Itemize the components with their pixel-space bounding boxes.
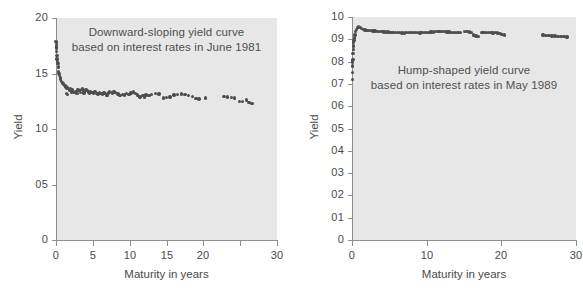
- data-point: [143, 95, 146, 98]
- data-point: [197, 97, 200, 100]
- data-point: [70, 90, 73, 93]
- data-point: [55, 50, 58, 53]
- data-point: [55, 45, 58, 48]
- data-point: [353, 36, 356, 39]
- data-point: [351, 78, 354, 81]
- y-tick-left-4: [52, 18, 57, 19]
- chart-annotation-right: Hump-shaped yield curve based on interes…: [352, 63, 576, 93]
- y-tick-right-6: [348, 106, 353, 107]
- y-tick-right-10: [348, 17, 353, 18]
- y-tick-label-left-1: 05: [16, 178, 48, 190]
- x-tick-right-2: [501, 241, 502, 246]
- x-tick-left-5: [240, 241, 241, 246]
- y-tick-label-right-3: 03: [312, 166, 344, 178]
- y-axis-title-right: Yield: [308, 87, 320, 167]
- data-point: [476, 35, 479, 38]
- x-tick-label-left-1: 5: [78, 249, 108, 261]
- plot-area-right: [352, 17, 576, 240]
- x-tick-label-right-3: 30: [561, 249, 583, 261]
- data-point: [226, 95, 229, 98]
- x-tick-right-0: [352, 241, 353, 246]
- y-tick-label-right-1: 01: [312, 211, 344, 223]
- chart-annotation-left: Downward-sloping yield curve based on in…: [56, 25, 277, 55]
- x-axis-line-right: [352, 240, 577, 241]
- x-tick-left-4: [203, 241, 204, 246]
- x-tick-label-right-1: 10: [412, 249, 442, 261]
- y-tick-left-3: [52, 74, 57, 75]
- x-tick-label-right-2: 20: [486, 249, 516, 261]
- x-tick-left-0: [56, 241, 57, 246]
- x-tick-left-2: [130, 241, 131, 246]
- data-point: [233, 96, 236, 99]
- data-point: [57, 65, 60, 68]
- y-axis-title-left: Yield: [12, 87, 24, 167]
- x-axis-title-left: Maturity in years: [56, 268, 277, 280]
- data-point: [353, 33, 356, 36]
- y-tick-label-right-10: 10: [312, 10, 344, 22]
- data-point: [352, 48, 355, 51]
- x-tick-left-6: [277, 241, 278, 246]
- data-point: [157, 92, 160, 95]
- y-tick-left-2: [52, 129, 57, 130]
- y-tick-label-left-4: 20: [16, 11, 48, 23]
- data-point: [250, 102, 253, 105]
- x-tick-left-1: [93, 241, 94, 246]
- y-tick-right-7: [348, 84, 353, 85]
- figure-container: Downward-sloping yield curve based on in…: [0, 0, 583, 305]
- x-tick-left-3: [167, 241, 168, 246]
- y-tick-label-left-3: 15: [16, 67, 48, 79]
- y-tick-right-3: [348, 173, 353, 174]
- y-tick-label-left-0: 0: [16, 233, 48, 245]
- data-point: [352, 44, 355, 47]
- y-tick-right-5: [348, 129, 353, 130]
- x-tick-label-left-2: 10: [115, 249, 145, 261]
- x-tick-label-left-0: 0: [41, 249, 71, 261]
- x-tick-label-left-3: 15: [152, 249, 182, 261]
- y-tick-left-1: [52, 185, 57, 186]
- y-tick-right-2: [348, 195, 353, 196]
- data-point: [54, 40, 57, 43]
- data-point: [351, 64, 354, 67]
- data-point: [82, 91, 85, 94]
- x-tick-label-left-4: 20: [188, 249, 218, 261]
- data-point: [503, 33, 506, 36]
- y-tick-label-right-2: 02: [312, 188, 344, 200]
- x-tick-right-1: [427, 241, 428, 246]
- data-point: [565, 35, 568, 38]
- chart-panel-right: Hump-shaped yield curve based on interes…: [291, 0, 583, 305]
- chart-panel-left: Downward-sloping yield curve based on in…: [0, 0, 292, 305]
- x-axis-title-right: Maturity in years: [352, 268, 576, 280]
- x-tick-label-left-6: 30: [262, 249, 292, 261]
- x-tick-label-right-0: 0: [337, 249, 367, 261]
- y-tick-right-1: [348, 218, 353, 219]
- data-point: [351, 58, 354, 61]
- y-tick-label-right-9: 09: [312, 32, 344, 44]
- y-tick-label-right-8: 08: [312, 55, 344, 67]
- x-tick-right-3: [576, 241, 577, 246]
- y-tick-right-4: [348, 151, 353, 152]
- y-tick-label-right-0: 0: [312, 233, 344, 245]
- data-point: [204, 96, 207, 99]
